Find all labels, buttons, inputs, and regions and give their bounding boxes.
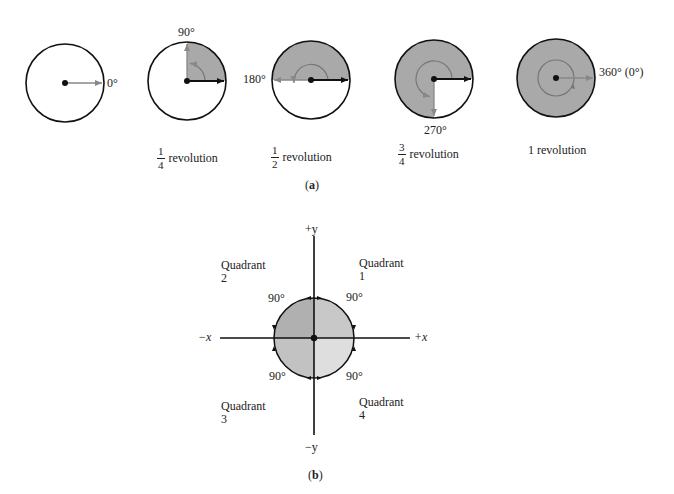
caption-full-revolution: 1 revolution [528,144,586,156]
angle-label-360: 360° (0°) [599,66,644,78]
quadrant-4-label: Quadrant 4 [359,396,404,422]
quadrant-1-angle: 90° [346,291,363,303]
quadrant-1-label: Quadrant 1 [359,257,404,283]
angle-label-90: 90° [178,26,195,38]
caption-half-revolution: 1 2 revolution [271,145,332,170]
circle-90-degrees [148,42,226,120]
diagram-canvas [0,0,674,494]
quadrant-2-angle: 90° [268,292,285,304]
axis-label-pos-y: +y [305,223,318,235]
angle-label-270: 270° [424,124,447,136]
caption-three-quarter-revolution: 3 4 revolution [398,142,459,167]
quadrant-3-label: Quadrant 3 [221,400,266,426]
fraction: 1 2 [271,145,279,170]
caption-quarter-revolution: 1 4 revolution [157,146,218,171]
fraction: 3 4 [398,142,406,167]
panel-label-a: (a) [305,178,319,193]
panel-label-b: (b) [308,468,323,483]
fraction: 1 4 [157,146,165,171]
quadrant-2-label: Quadrant 2 [221,259,266,285]
axis-label-neg-x: −x [198,331,211,343]
angle-label-180: 180° [243,73,266,85]
circle-180-degrees [272,41,350,119]
quadrant-3-angle: 90° [269,370,286,382]
angle-label-0: 0° [107,77,118,89]
circle-0-degrees [26,44,104,122]
circle-360-degrees [517,39,595,117]
quadrant-4-angle: 90° [346,370,363,382]
axis-label-pos-x: +x [414,331,427,343]
axis-label-neg-y: −y [305,441,318,453]
origin-point [311,335,317,341]
circle-270-degrees [395,40,473,118]
